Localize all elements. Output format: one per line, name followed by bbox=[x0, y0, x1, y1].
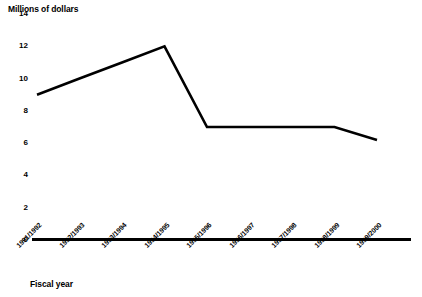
y-axis-tick-labels: 02468101214 bbox=[0, 0, 28, 297]
y-axis-tick-2: 2 bbox=[0, 204, 28, 212]
y-axis-tick-8: 8 bbox=[0, 107, 28, 115]
y-axis-tick-14: 14 bbox=[0, 10, 28, 18]
y-axis-tick-6: 6 bbox=[0, 139, 28, 147]
plot-area bbox=[32, 14, 412, 240]
y-axis-tick-12: 12 bbox=[0, 42, 28, 50]
x-axis-line bbox=[32, 238, 411, 241]
x-axis-title: Fiscal year bbox=[30, 279, 73, 289]
y-axis-tick-4: 4 bbox=[0, 171, 28, 179]
y-axis-tick-0: 0 bbox=[0, 236, 28, 244]
line-chart: Millions of dollars 02468101214 1991/199… bbox=[0, 0, 422, 297]
data-series-line bbox=[37, 46, 377, 140]
plot-svg bbox=[32, 14, 412, 240]
y-axis-tick-10: 10 bbox=[0, 75, 28, 83]
